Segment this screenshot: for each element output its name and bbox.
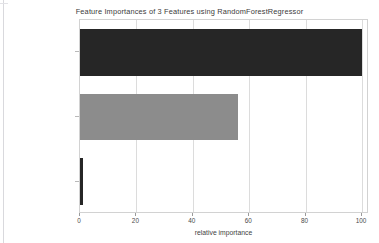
y-tick-mark-newspaper (75, 181, 79, 182)
bar-newspaper (80, 158, 83, 205)
chart-figure: Feature Importances of 3 Features using … (0, 0, 379, 243)
x-tick-mark-80 (305, 213, 306, 216)
x-axis-label: relative importance (79, 229, 368, 236)
plot-area (79, 19, 368, 213)
x-tick-mark-20 (135, 213, 136, 216)
x-tick-label-60: 60 (245, 217, 252, 224)
bar-radio (80, 94, 238, 141)
chart-title: Feature Importances of 3 Features using … (0, 7, 379, 16)
x-tick-label-80: 80 (301, 217, 308, 224)
y-tick-mark-radio (75, 116, 79, 117)
x-tick-label-40: 40 (188, 217, 195, 224)
x-tick-mark-60 (248, 213, 249, 216)
bar-tv (80, 29, 362, 76)
page-edge-corner (0, 3, 8, 4)
y-tick-mark-tv (75, 51, 79, 52)
x-tick-label-100: 100 (356, 217, 367, 224)
x-tick-mark-0 (79, 213, 80, 216)
x-tick-mark-100 (361, 213, 362, 216)
page-edge-line (3, 0, 4, 243)
gridline-x-100 (362, 20, 363, 212)
x-tick-label-20: 20 (132, 217, 139, 224)
x-tick-mark-40 (192, 213, 193, 216)
x-tick-label-0: 0 (77, 217, 81, 224)
